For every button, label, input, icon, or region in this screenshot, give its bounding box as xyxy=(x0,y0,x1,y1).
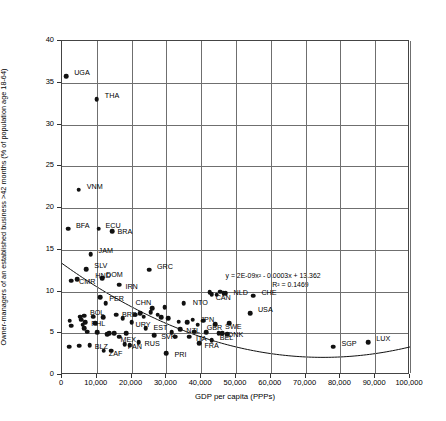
data-point-label: UGA xyxy=(74,69,90,76)
data-point xyxy=(67,344,72,349)
data-point xyxy=(75,277,80,282)
y-tick-label: 15 xyxy=(18,245,54,253)
data-point xyxy=(114,313,119,318)
data-point xyxy=(178,327,183,332)
data-point xyxy=(185,320,190,325)
data-point-label: EST xyxy=(154,325,168,332)
data-point xyxy=(222,291,227,296)
data-point xyxy=(88,252,93,257)
y-tick-label: 25 xyxy=(18,161,54,169)
y-tick-label: 40 xyxy=(18,36,54,44)
data-point xyxy=(85,329,90,334)
x-gridline xyxy=(340,41,341,373)
data-point xyxy=(166,316,171,321)
data-point xyxy=(251,293,256,298)
data-point xyxy=(208,290,213,295)
data-point xyxy=(103,301,108,306)
data-point xyxy=(152,333,157,338)
x-axis-label: GDP per capita (PPPs) xyxy=(61,392,409,401)
data-point xyxy=(162,305,167,310)
data-point xyxy=(96,227,101,232)
plot-area: y = 2E-09x² - 0.0003x + 13.362 R² = 0.14… xyxy=(61,40,409,374)
y-tick-label: 5 xyxy=(18,328,54,336)
data-point-label: VNM xyxy=(87,183,103,190)
y-gridline xyxy=(62,166,408,167)
data-point xyxy=(84,267,89,272)
data-point xyxy=(148,310,153,315)
data-point xyxy=(366,340,371,345)
data-point xyxy=(159,315,164,320)
data-point xyxy=(129,320,134,325)
data-point xyxy=(124,331,129,336)
y-gridline xyxy=(62,83,408,84)
data-point xyxy=(204,330,209,335)
y-tick-label: 20 xyxy=(18,203,54,211)
data-point xyxy=(187,334,192,339)
data-point-label: GRC xyxy=(157,263,173,270)
data-point xyxy=(88,343,93,348)
data-point-label: NLD xyxy=(234,290,248,297)
data-point xyxy=(164,351,169,356)
data-point xyxy=(190,318,195,323)
data-point xyxy=(225,332,230,337)
data-point xyxy=(117,283,122,288)
data-point-label: SGP xyxy=(341,340,356,347)
data-point-label: SLV xyxy=(94,262,107,269)
data-point xyxy=(197,341,202,346)
data-point xyxy=(112,331,117,336)
data-point xyxy=(98,295,103,300)
data-point-label: PRI xyxy=(174,352,186,359)
data-point xyxy=(77,343,82,348)
data-point xyxy=(121,316,126,321)
data-point xyxy=(213,322,218,327)
data-point xyxy=(69,278,74,283)
data-point xyxy=(128,343,133,348)
data-point-label: FRA xyxy=(204,343,218,350)
data-point xyxy=(141,314,146,319)
data-point xyxy=(133,313,138,318)
data-point xyxy=(201,318,206,323)
data-point xyxy=(64,74,69,79)
data-point xyxy=(95,330,100,335)
data-point xyxy=(79,318,84,323)
data-point-label: HND xyxy=(95,272,111,279)
x-gridline xyxy=(306,41,307,373)
data-point-label: LUX xyxy=(376,336,390,343)
data-point xyxy=(109,348,114,353)
data-point-label: CHN xyxy=(136,300,152,307)
data-point xyxy=(227,321,232,326)
data-point xyxy=(101,315,106,320)
y-tickmark xyxy=(57,374,61,375)
y-gridline xyxy=(62,125,408,126)
data-point xyxy=(110,229,115,234)
data-point xyxy=(176,319,181,324)
x-gridline xyxy=(375,41,376,373)
data-point-label: BFA xyxy=(76,222,90,229)
data-point xyxy=(216,331,221,336)
data-point-label: RUS xyxy=(145,341,160,348)
y-gridline xyxy=(62,250,408,251)
y-tickmark xyxy=(57,249,61,250)
y-gridline xyxy=(62,208,408,209)
data-point-label: CMR xyxy=(79,278,95,285)
data-point-label: USA xyxy=(258,307,273,314)
data-point-label: CHE xyxy=(261,289,276,296)
data-point xyxy=(122,342,127,347)
data-point xyxy=(67,318,72,323)
data-point xyxy=(76,187,81,192)
y-tick-label: 0 xyxy=(18,370,54,378)
y-tickmark xyxy=(57,40,61,41)
y-tickmark xyxy=(57,165,61,166)
x-gridline xyxy=(271,41,272,373)
y-tickmark xyxy=(57,207,61,208)
y-axis-label: Owner-managers of an established busines… xyxy=(0,40,13,374)
data-point-label: PER xyxy=(109,296,124,303)
data-point xyxy=(94,97,99,102)
data-point xyxy=(66,227,71,232)
x-gridline xyxy=(410,41,411,373)
data-point xyxy=(101,348,106,353)
y-tick-label: 30 xyxy=(18,120,54,128)
data-point-label: THA xyxy=(105,93,119,100)
y-tickmark xyxy=(57,291,61,292)
y-tickmark xyxy=(57,124,61,125)
